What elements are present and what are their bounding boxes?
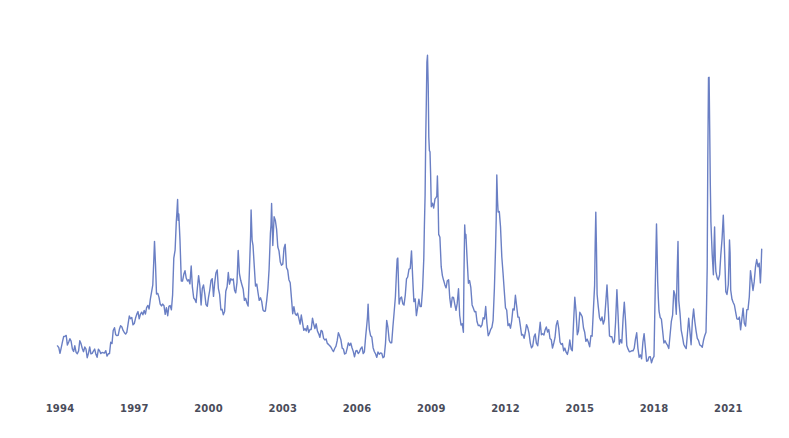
line-chart <box>0 0 789 438</box>
x-tick-label: 2006 <box>343 403 372 414</box>
x-tick-label: 2000 <box>194 403 223 414</box>
x-tick-label: 1994 <box>46 403 75 414</box>
x-tick-label: 2018 <box>640 403 669 414</box>
volatility-line <box>58 55 762 363</box>
x-tick-label: 2021 <box>714 403 743 414</box>
x-tick-label: 2012 <box>491 403 520 414</box>
x-tick-label: 1997 <box>120 403 149 414</box>
x-tick-label: 2015 <box>565 403 594 414</box>
x-tick-label: 2009 <box>417 403 446 414</box>
x-tick-label: 2003 <box>268 403 297 414</box>
